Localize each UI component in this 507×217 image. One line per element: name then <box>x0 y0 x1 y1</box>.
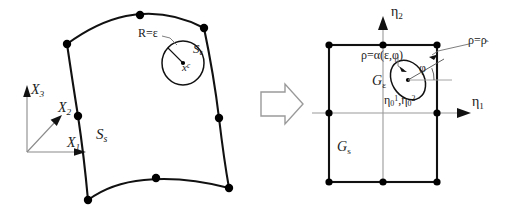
element-node <box>200 24 208 32</box>
mapping-arrow-icon <box>261 84 303 124</box>
reference-node <box>325 41 332 48</box>
element-node <box>215 114 223 122</box>
axis-x2-line <box>27 121 56 152</box>
left-physical-element <box>23 11 233 204</box>
label-surface-ss: Ss <box>96 127 107 144</box>
label-rho-alpha: ρ=α(ε,φ) <box>361 49 403 61</box>
label-source-point-eta0: η01,η02 <box>384 94 415 108</box>
label-angle-phi: φ <box>419 62 426 74</box>
figure-container: Ss Sε R=ε xc X3 X2 X1 η2 η1 ρ=α(ε,φ) ρ=ρ… <box>0 0 507 217</box>
element-node <box>84 196 92 204</box>
label-radius-epsilon: R=ε <box>138 27 158 39</box>
label-domain-gs: Gs <box>337 140 351 156</box>
label-axis-eta1: η1 <box>472 95 484 111</box>
reference-node <box>379 178 386 185</box>
surface-boundary-curve <box>67 14 229 200</box>
element-node <box>152 174 160 182</box>
axis-eta2-arrowhead <box>378 16 388 30</box>
label-collocation-point-xc: xc <box>182 62 190 73</box>
label-axis-x2: X2 <box>58 101 71 117</box>
element-node <box>225 184 233 192</box>
phi-angle-arc <box>432 68 434 80</box>
reference-node <box>433 109 440 116</box>
element-node <box>63 40 71 48</box>
label-rho-hat: ρ=ρˆ <box>468 34 487 46</box>
label-axis-x3: X3 <box>31 83 44 99</box>
label-surface-s-epsilon: Sε <box>193 42 203 57</box>
label-axis-eta2: η2 <box>391 5 403 21</box>
label-axis-x1: X1 <box>67 136 80 152</box>
reference-node <box>433 41 440 48</box>
reference-node <box>433 178 440 185</box>
label-subdomain-g-epsilon: Gε <box>372 74 386 90</box>
axis-x3-arrowhead <box>23 85 31 97</box>
element-node <box>74 112 82 120</box>
mapping-arrow-group <box>261 84 303 124</box>
element-node <box>136 11 144 19</box>
reference-node <box>325 178 332 185</box>
figure-canvas <box>0 0 507 217</box>
reference-node <box>325 109 332 116</box>
axis-eta1-arrowhead <box>457 108 471 118</box>
